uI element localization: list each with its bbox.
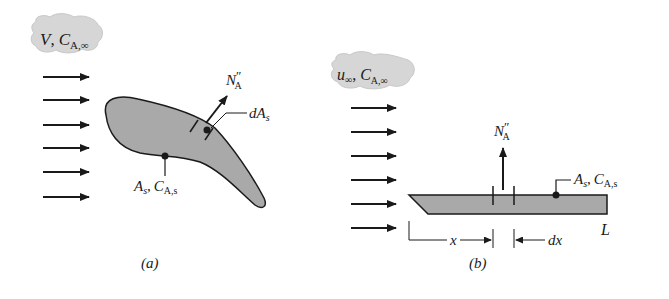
velocity-symbol: u: [337, 66, 345, 83]
separator: ,: [587, 171, 591, 187]
area-element-label: dAs: [249, 105, 270, 123]
dx-label: dx: [548, 232, 563, 248]
subscript: A,∞: [70, 39, 89, 51]
separator: ,: [352, 66, 356, 83]
flat-plate: [409, 195, 607, 214]
flow-arrows-a: [43, 77, 89, 197]
subscript: A: [234, 80, 242, 91]
area-element-point: [204, 127, 211, 134]
x-label: x: [449, 232, 457, 248]
panel-b: u∞,CA,∞ N″A As,CA,s L x: [331, 52, 617, 272]
surface-label-b: As,CA,s: [573, 171, 618, 189]
surface-label-a: As,CA,s: [133, 178, 178, 196]
separator: ,: [147, 178, 151, 194]
subscript: A,s: [604, 178, 618, 189]
object-body-a: [105, 97, 265, 207]
subscript: s: [266, 112, 270, 123]
subscript: A: [502, 131, 510, 142]
caption-a: (a): [141, 255, 159, 272]
length-label: L: [600, 221, 610, 238]
concentration-symbol: C: [360, 66, 371, 83]
panel-a: V,CA,∞ N″A dAs As,CA,s: [31, 14, 269, 272]
leader-line: [211, 113, 247, 128]
flux-label-a: N″A: [225, 68, 242, 91]
subscript: A,∞: [371, 75, 388, 86]
subscript: ∞: [345, 74, 352, 85]
diagram-canvas: V,CA,∞ N″A dAs As,CA,s: [0, 0, 669, 299]
subscript: A,s: [164, 185, 178, 196]
caption-b: (b): [469, 255, 487, 272]
flux-arrow-icon: [206, 96, 227, 123]
flow-arrows-b: [351, 108, 396, 228]
x-dimension-start: [409, 221, 447, 240]
area-symbol: dA: [249, 105, 267, 121]
separator: ,: [50, 30, 54, 49]
flux-label-b: N″A: [493, 119, 510, 142]
concentration-symbol: C: [59, 30, 71, 49]
